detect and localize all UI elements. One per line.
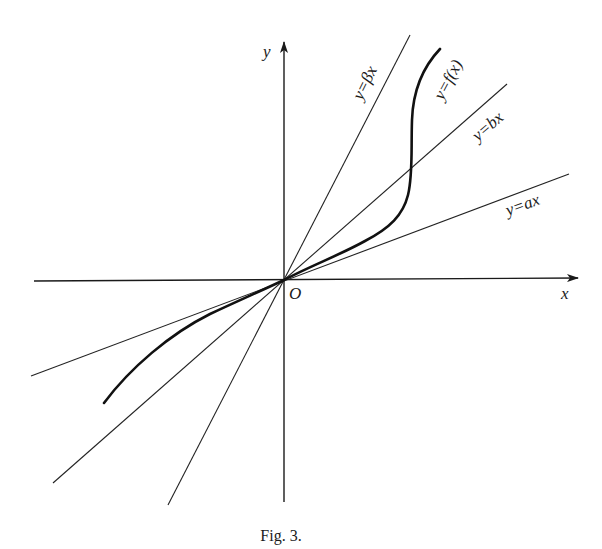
figure-3-diagram: x y O y=βx y=f(x) y=bx y=ax Fig. 3.	[0, 0, 602, 549]
label-y-f-x: y=f(x)	[429, 56, 467, 105]
figure-caption: Fig. 3.	[260, 527, 301, 545]
line-y-beta-x	[168, 35, 410, 505]
x-axis-label: x	[560, 284, 569, 303]
line-y-b-x	[53, 84, 507, 483]
line-y-a-x	[31, 174, 569, 376]
y-axis-label: y	[261, 42, 271, 61]
x-axis	[34, 278, 578, 281]
curve-y-f-x	[104, 49, 440, 403]
label-y-b-x: y=bx	[467, 107, 508, 146]
origin-label: O	[289, 284, 301, 303]
label-y-a-x: y=ax	[501, 190, 543, 221]
label-y-beta-x: y=βx	[348, 63, 382, 105]
